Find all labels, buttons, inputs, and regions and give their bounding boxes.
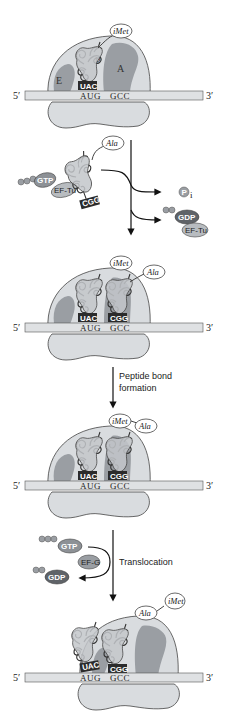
p-anticodon-label: UAC (80, 314, 98, 323)
codon-2: GCC (110, 481, 130, 491)
a-anticodon-label: CGG (110, 314, 128, 323)
peptide-bond-step: Peptide bond formation (113, 367, 172, 405)
mrna-5-prime: 5′ (13, 322, 20, 333)
a-anticodon-label: CGG (110, 472, 128, 481)
mrna-5-prime: 5′ (13, 480, 20, 491)
chain-amino-acid-2: iMet (168, 596, 184, 606)
codon-1: AUG (80, 673, 101, 683)
incoming-amino-acid-label: Ala (105, 138, 118, 148)
p-anticodon-label: UAC (80, 472, 98, 481)
chain-amino-acid-1: Ala (138, 608, 151, 618)
a-amino-acid-label: Ala (146, 267, 159, 277)
codon-1: AUG (80, 91, 101, 101)
peptide-bond-label-1: Peptide bond (119, 371, 172, 381)
translocation-label: Translocation (119, 557, 173, 567)
amino-acid-label: iMet (113, 26, 129, 36)
mrna-3-prime: 3′ (206, 672, 213, 683)
ribosome-panel-4: Ala iMet UAC CGG 5′ 3′ AUG GCC (13, 593, 213, 710)
site-label-e: E (56, 75, 62, 86)
ribosome-panel-1: E P A iMet UAC 5′ 3′ AUG GCC (13, 24, 213, 128)
translation-elongation-diagram: E P A iMet UAC 5′ 3′ AUG GCC GTP EF-Tu (0, 0, 226, 721)
chain-amino-acid-2: Ala (138, 421, 151, 431)
pi-release-arrow (101, 170, 158, 192)
mrna-3-prime: 3′ (206, 322, 213, 333)
eftu-release-arrow (131, 210, 158, 220)
gdp-label: GDP (178, 213, 196, 222)
pi-subscript: i (190, 190, 193, 200)
incoming-aminoacyl-complex: GTP EF-Tu Ala CGG (18, 136, 124, 209)
mrna-5-prime: 5′ (13, 90, 20, 101)
ribosome-panel-2: iMet Ala UAC CGG 5′ 3′ AUG GCC (13, 256, 213, 360)
translocation-step: Translocation GTP EF-G GDP (33, 530, 173, 598)
codon-1: AUG (80, 481, 101, 491)
codon-2: GCC (110, 673, 130, 683)
ef-g-label: EF-G (81, 558, 100, 567)
codon-2: GCC (110, 91, 130, 101)
site-label-a: A (117, 63, 125, 74)
chain-amino-acid-1: iMet (112, 416, 128, 426)
gtp-label: GTP (37, 176, 54, 185)
small-subunit (48, 102, 149, 128)
mrna-3-prime: 3′ (206, 480, 213, 491)
mrna-5-prime: 5′ (13, 672, 20, 683)
aminoacyl-trna-delivery: GTP EF-Tu Ala CGG P i GDP EF-Tu (18, 136, 208, 237)
ef-tu-label: EF-Tu (54, 186, 76, 195)
ef-g-gdp-label: GDP (48, 573, 66, 582)
peptide-bond-label-2: formation (119, 383, 157, 393)
codon-2: GCC (110, 323, 130, 333)
p-amino-acid-label: iMet (113, 258, 129, 268)
incoming-anticodon-label: CGG (81, 195, 101, 208)
codon-1: AUG (80, 323, 101, 333)
pi-label: P (182, 188, 188, 197)
ef-g-gtp-label: GTP (61, 542, 78, 551)
released-ef-tu-label: EF-Tu (185, 226, 207, 235)
ribosome-panel-3: iMet Ala UAC CGG 5′ 3′ AUG GCC (13, 414, 213, 518)
mrna-3-prime: 3′ (206, 90, 213, 101)
anticodon-label: UAC (80, 82, 98, 91)
